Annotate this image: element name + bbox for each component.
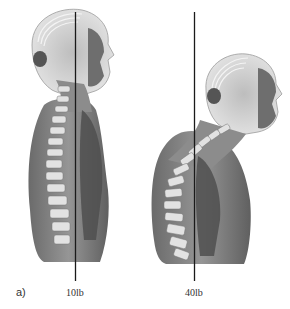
upright-figure <box>29 9 114 281</box>
posture-diagram <box>0 0 290 309</box>
load-label-10lb: 10lb <box>66 287 84 298</box>
forward-head-figure <box>152 12 282 281</box>
load-label-40lb: 40lb <box>185 287 203 298</box>
ear-muscle <box>33 51 47 67</box>
panel-label: a) <box>16 286 26 298</box>
ear-muscle <box>207 88 221 104</box>
